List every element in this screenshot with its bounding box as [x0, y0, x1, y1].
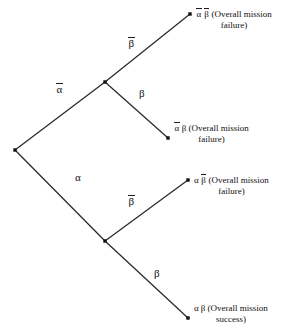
- branch-label-alpha-bar: α: [56, 84, 63, 95]
- probability-tree-diagram: α β β α β β αβ (Overall missionfailure) …: [0, 0, 286, 335]
- edge-alpha-beta: [105, 241, 188, 318]
- node-alpha-bar: [103, 80, 106, 83]
- edge-root-alpha: [15, 150, 105, 241]
- edge-alpha-bar-beta: [105, 82, 168, 138]
- node-leaf-2: [166, 136, 169, 139]
- node-leaf-4: [186, 316, 189, 319]
- leaf-outcome-alphabar-beta: αβ (Overall missionfailure): [174, 123, 249, 144]
- node-leaf-1: [188, 12, 191, 15]
- branch-label-beta-bar-lower: β: [128, 196, 135, 207]
- leaf-outcome-alpha-betabar: αβ (Overall missionfailure): [194, 175, 269, 196]
- node-alpha: [103, 239, 106, 242]
- branch-label-alpha: α: [75, 172, 81, 183]
- edge-alpha-bar-beta-bar: [105, 14, 190, 82]
- tree-graphic: [0, 0, 286, 335]
- node-leaf-3: [186, 178, 189, 181]
- branch-label-beta-lower: β: [154, 268, 160, 279]
- edge-alpha-beta-bar: [105, 180, 188, 241]
- leaf-outcome-alphabar-betabar: αβ (Overall missionfailure): [196, 9, 272, 30]
- tree-edges: [15, 14, 190, 318]
- branch-label-beta-bar-upper: β: [128, 38, 135, 49]
- leaf-outcome-alpha-beta: αβ (Overall missionsuccess): [194, 303, 268, 324]
- tree-nodes: [13, 12, 191, 319]
- branch-label-beta-upper: β: [139, 88, 145, 99]
- node-root: [13, 148, 16, 151]
